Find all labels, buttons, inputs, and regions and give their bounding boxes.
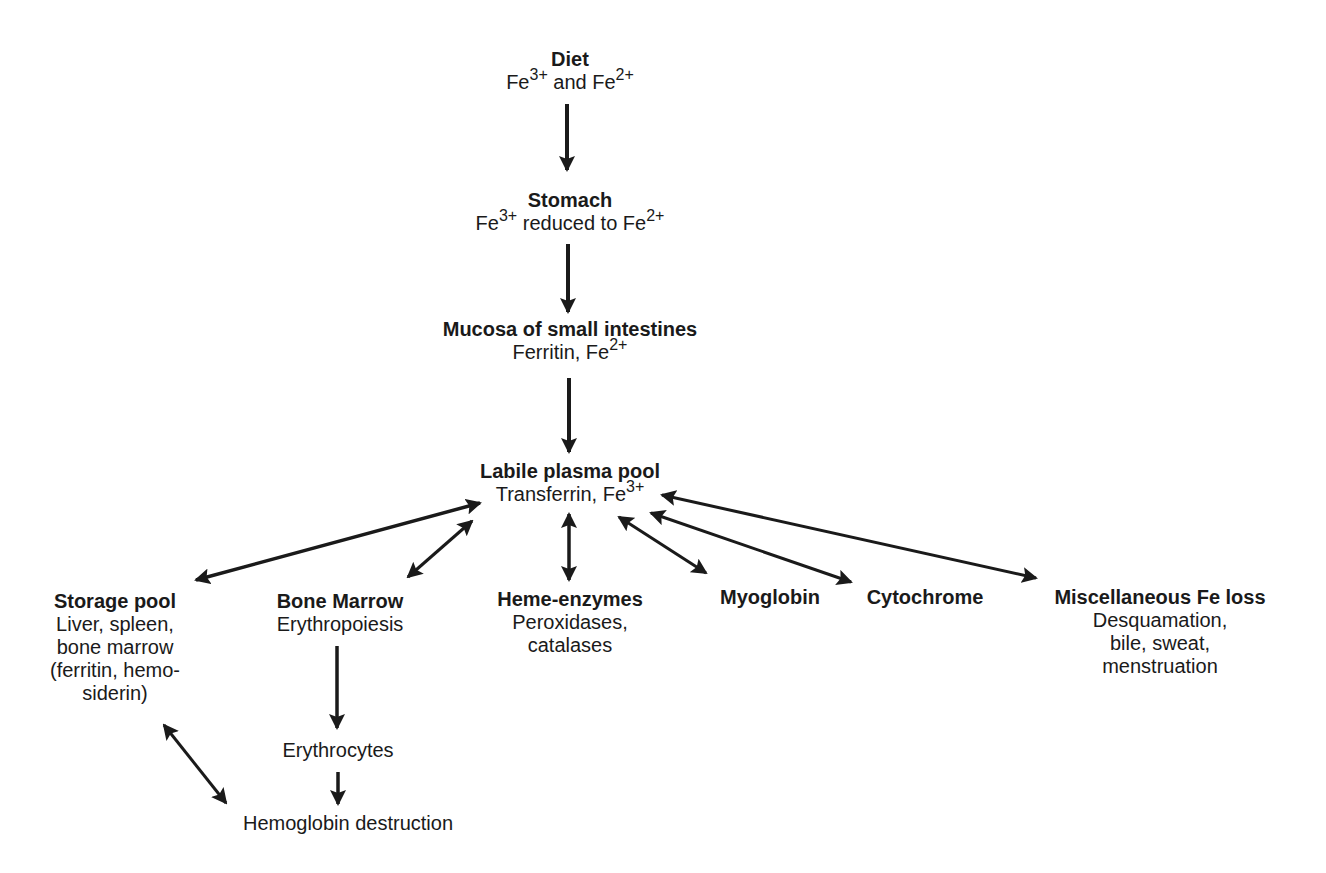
arrow-plasma-myoglobin [619,517,706,573]
arrow-storage-hemoglobin [164,725,226,803]
node-diet-title: Diet [470,48,670,71]
node-hemoglobin-destruction: Hemoglobin destruction [208,812,488,835]
node-heme-enzymes: Heme-enzymes Peroxidases, catalases [480,588,660,657]
node-plasma-title: Labile plasma pool [440,460,700,483]
node-bone-marrow-title: Bone Marrow [250,590,430,613]
node-heme-title: Heme-enzymes [480,588,660,611]
node-diet-subtitle: Fe3+ and Fe2+ [470,71,670,94]
arrow-plasma-bone-marrow [408,521,472,577]
node-myoglobin-title: Myoglobin [700,586,840,609]
node-hemoglobin-label: Hemoglobin destruction [208,812,488,835]
node-misc-title: Miscellaneous Fe loss [1030,586,1290,609]
node-mucosa: Mucosa of small intestines Ferritin, Fe2… [400,318,740,364]
node-storage-title: Storage pool [20,590,210,613]
node-mucosa-title: Mucosa of small intestines [400,318,740,341]
node-erythrocytes-label: Erythrocytes [258,739,418,762]
node-storage-line-3: (ferritin, hemo- [20,659,210,682]
node-heme-line-1: Peroxidases, [480,611,660,634]
node-bone-marrow-line-1: Erythropoiesis [250,613,430,636]
node-mucosa-subtitle: Ferritin, Fe2+ [400,341,740,364]
node-plasma: Labile plasma pool Transferrin, Fe3+ [440,460,700,506]
node-misc-line-1: Desquamation, [1030,609,1290,632]
node-diet: Diet Fe3+ and Fe2+ [470,48,670,94]
node-cytochrome-title: Cytochrome [855,586,995,609]
node-misc-line-3: menstruation [1030,655,1290,678]
node-cytochrome: Cytochrome [855,586,995,609]
node-storage-line-4: siderin) [20,682,210,705]
node-heme-line-2: catalases [480,634,660,657]
node-stomach: Stomach Fe3+ reduced to Fe2+ [430,189,710,235]
node-stomach-subtitle: Fe3+ reduced to Fe2+ [430,212,710,235]
node-misc-line-2: bile, sweat, [1030,632,1290,655]
arrows-layer [0,0,1326,873]
node-plasma-subtitle: Transferrin, Fe3+ [440,483,700,506]
node-misc-fe-loss: Miscellaneous Fe loss Desquamation, bile… [1030,586,1290,678]
node-stomach-title: Stomach [430,189,710,212]
node-myoglobin: Myoglobin [700,586,840,609]
arrow-plasma-cytochrome [651,513,851,582]
node-storage-pool: Storage pool Liver, spleen, bone marrow … [20,590,210,705]
arrow-plasma-storage [196,503,480,580]
node-erythrocytes: Erythrocytes [258,739,418,762]
node-storage-line-2: bone marrow [20,636,210,659]
node-storage-line-1: Liver, spleen, [20,613,210,636]
node-bone-marrow: Bone Marrow Erythropoiesis [250,590,430,636]
